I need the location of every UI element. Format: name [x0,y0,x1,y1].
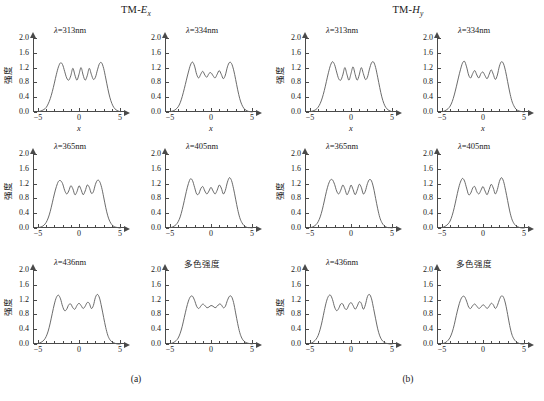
plot-area: 0.00.40.81.21.62.0−505x [165,38,257,112]
plot-area: 0.00.40.81.21.62.0−505x强度 [33,38,125,112]
x-tick-label: 5 [250,230,254,238]
y-tick-label: 1.2 [19,180,29,188]
y-tick-label: 1.6 [423,281,433,289]
y-tick-label: 0.8 [19,310,29,318]
x-tick-label: 5 [118,230,122,238]
y-tick-label: 1.6 [423,49,433,57]
y-tick-label: 0.8 [291,310,301,318]
y-tick-label: 1.6 [291,281,301,289]
x-axis-label: x [481,123,485,133]
plot-area: 0.00.40.81.21.62.0−505强度 [33,270,125,344]
y-tick-label: 0.4 [291,93,301,101]
group-title: TM-Ex [0,4,272,18]
y-tick-label: 0.4 [423,325,433,333]
y-tick-label: 0.0 [291,224,301,232]
y-tick-label: 1.6 [151,49,161,57]
subplot-grid: λ=313nm0.00.40.81.21.62.0−505x强度λ=334nm0… [272,24,544,372]
y-tick-label: 2.0 [291,266,301,274]
y-axis-label: 强度 [1,66,13,84]
y-tick-label: 1.6 [19,49,29,57]
x-tick-label: −5 [438,230,447,238]
y-tick-label: 1.6 [291,49,301,57]
plot-area: 0.00.40.81.21.62.0−505 [165,154,257,228]
x-tick-label: −5 [166,114,175,122]
plot-area: 0.00.40.81.21.62.0−505 [437,154,529,228]
y-tick-label: 0.0 [423,108,433,116]
y-tick-label: 2.0 [423,150,433,158]
y-tick-label: 1.6 [291,165,301,173]
x-tick-label: 0 [77,230,81,238]
x-tick-label: −5 [306,346,315,354]
y-tick-label: 1.2 [151,180,161,188]
x-tick-label: 5 [250,114,254,122]
x-axis-label: x [77,123,81,133]
y-tick-label: 0.4 [151,209,161,217]
plot-area: 0.00.40.81.21.62.0−505强度 [33,154,125,228]
y-tick-label: 0.4 [423,93,433,101]
y-tick-label: 2.0 [151,266,161,274]
x-tick-label: 5 [390,114,394,122]
subplot: 多色强度0.00.40.81.21.62.0−505 [406,256,542,372]
x-axis-label: x [209,123,213,133]
subplot: λ=436nm0.00.40.81.21.62.0−505强度 [274,256,410,372]
intensity-curve [33,154,125,228]
intensity-curve [437,270,529,344]
x-tick-label: −5 [306,114,315,122]
y-tick-label: 1.2 [291,64,301,72]
x-tick-label: 0 [209,230,213,238]
x-tick-label: 5 [390,346,394,354]
y-tick-label: 1.2 [291,296,301,304]
x-tick-label: −5 [438,346,447,354]
x-axis-label: x [349,123,353,133]
x-tick-label: 0 [209,114,213,122]
y-axis-label: 强度 [1,298,13,316]
y-tick-label: 0.4 [291,325,301,333]
x-tick-label: 5 [118,346,122,354]
y-tick-label: 0.4 [151,93,161,101]
x-tick-label: −5 [306,230,315,238]
y-tick-label: 2.0 [19,150,29,158]
y-tick-label: 0.4 [423,209,433,217]
intensity-curve [165,154,257,228]
x-tick-label: 5 [250,346,254,354]
x-tick-label: 5 [522,346,526,354]
y-axis-label: 强度 [1,182,13,200]
y-tick-label: 0.0 [151,108,161,116]
y-tick-label: 2.0 [19,34,29,42]
y-tick-label: 0.0 [19,108,29,116]
y-tick-label: 0.0 [151,340,161,348]
x-tick-label: 5 [522,230,526,238]
x-tick-label: −5 [166,346,175,354]
intensity-curve [305,270,397,344]
y-tick-label: 0.0 [19,340,29,348]
plot-area: 0.00.40.81.21.62.0−505x强度 [305,38,397,112]
y-tick-label: 0.8 [423,310,433,318]
y-tick-label: 0.8 [291,194,301,202]
y-tick-label: 2.0 [291,34,301,42]
plot-area: 0.00.40.81.21.62.0−505强度 [305,270,397,344]
y-tick-label: 0.8 [151,194,161,202]
plot-area: 0.00.40.81.21.62.0−505 [165,270,257,344]
intensity-curve [437,154,529,228]
x-tick-label: 0 [209,346,213,354]
subplot: λ=365nm0.00.40.81.21.62.0−505强度 [274,140,410,256]
subplot: λ=405nm0.00.40.81.21.62.0−505 [406,140,542,256]
y-tick-label: 2.0 [151,34,161,42]
intensity-curve [305,154,397,228]
x-tick-label: 0 [349,346,353,354]
y-axis-label: 强度 [273,182,285,200]
y-tick-label: 0.8 [19,194,29,202]
x-tick-label: 0 [77,346,81,354]
y-tick-label: 1.6 [151,281,161,289]
subplot: λ=334nm0.00.40.81.21.62.0−505x [406,24,542,140]
y-tick-label: 1.2 [19,296,29,304]
x-tick-label: 0 [481,346,485,354]
y-tick-label: 0.8 [19,78,29,86]
y-tick-label: 1.2 [423,180,433,188]
subplot: λ=334nm0.00.40.81.21.62.0−505x [134,24,270,140]
subplot: λ=365nm0.00.40.81.21.62.0−505强度 [2,140,138,256]
x-tick-label: 0 [349,230,353,238]
y-tick-label: 1.6 [423,165,433,173]
y-tick-label: 0.0 [291,108,301,116]
subplot: 多色强度0.00.40.81.21.62.0−505 [134,256,270,372]
